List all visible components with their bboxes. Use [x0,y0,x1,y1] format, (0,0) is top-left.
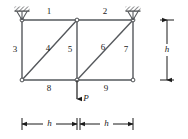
support-left-pin-icon [17,11,27,20]
joint-bottom-left [20,78,24,82]
load-arrow-P: P [77,80,89,103]
dimension-span-left: h [22,118,77,130]
dimension-height: h [160,20,174,80]
member-label-9: 9 [104,83,109,93]
dimension-span-right-label: h [104,118,109,128]
support-right-hatch-icon [126,7,141,12]
joint-top-mid [75,18,79,22]
dimension-span-left-label: h [47,118,52,128]
support-pin-right [126,7,141,21]
support-right-pin-icon [128,11,138,20]
dimension-span-right: h [80,118,133,130]
member-label-4: 4 [46,43,51,53]
truss-diagram-canvas: 1 2 3 4 5 6 7 8 9 P h h h [0,0,188,139]
support-left-hatch-icon [15,7,30,12]
member-label-2: 2 [103,6,108,16]
member-label-8: 8 [47,83,52,93]
member-label-7: 7 [124,44,129,54]
member-label-6: 6 [101,42,106,52]
truss-members-group [22,20,133,80]
joint-bottom-right [131,78,135,82]
load-label-P: P [82,93,89,103]
member-label-5: 5 [68,44,73,54]
dimension-height-label: h [165,44,170,54]
member-label-1: 1 [47,6,52,16]
support-pin-left [15,7,30,21]
truss-figure: 1 2 3 4 5 6 7 8 9 P h h h [0,0,188,139]
member-label-3: 3 [13,44,18,54]
